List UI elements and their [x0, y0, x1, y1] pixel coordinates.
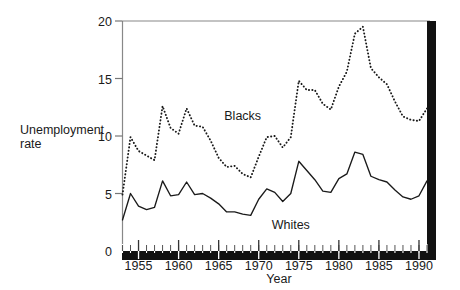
y-tick-label-0: 0: [105, 245, 112, 259]
y-tick-label-5: 5: [105, 188, 112, 202]
x-tick-label-1965: 1965: [205, 259, 233, 273]
chart-figure: 20 15 10 5 0 Unemployment rate 195519601…: [0, 0, 460, 290]
y-tick-label-20: 20: [98, 15, 112, 29]
series-line-whites: [123, 152, 428, 220]
y-axis-tick-labels: 20 15 10 5 0: [98, 15, 112, 259]
x-tick-label-1990: 1990: [405, 259, 433, 273]
x-axis-tick-labels: 19551960196519701975198019851990: [125, 259, 433, 273]
x-tick-label-1985: 1985: [365, 259, 393, 273]
x-tick-label-1970: 1970: [245, 259, 273, 273]
data-series-layer: [123, 27, 428, 220]
y-axis-title: Unemployment rate: [20, 123, 105, 151]
x-tick-label-1960: 1960: [165, 259, 193, 273]
x-tick-label-1955: 1955: [125, 259, 153, 273]
x-tick-label-1980: 1980: [325, 259, 353, 273]
y-tick-label-15: 15: [98, 73, 112, 87]
x-tick-label-1975: 1975: [285, 259, 313, 273]
series-line-blacks: [123, 27, 428, 195]
y-axis-title-line1: Unemployment: [20, 123, 105, 137]
series-label-blacks: Blacks: [224, 109, 261, 123]
y-axis-title-line2: rate: [20, 137, 42, 151]
x-axis-title: Year: [266, 272, 291, 286]
unemployment-rate-line-chart: 20 15 10 5 0 Unemployment rate 195519601…: [0, 0, 460, 290]
series-label-whites: Whites: [272, 218, 310, 232]
y-axis-ticks: [115, 21, 123, 194]
